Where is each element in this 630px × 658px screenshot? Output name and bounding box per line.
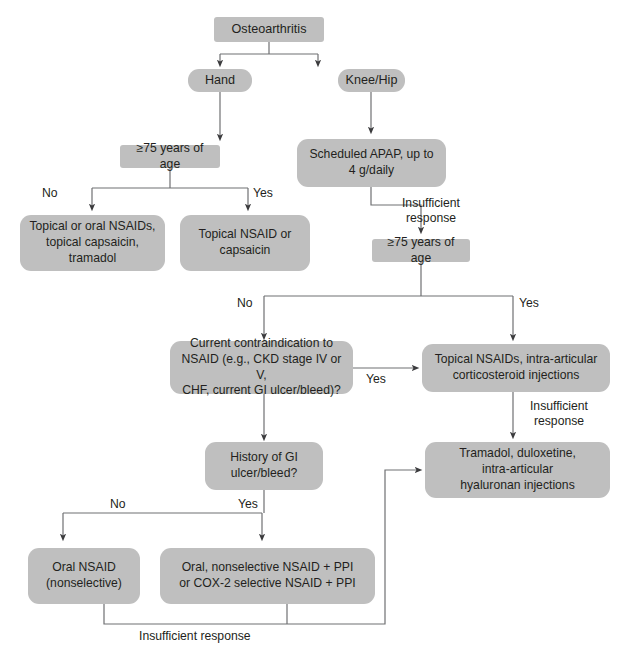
- node-age-knee-label: ≥75 years of age: [378, 235, 464, 267]
- node-knee-hip[interactable]: Knee/Hip: [338, 69, 405, 92]
- node-age-hand[interactable]: ≥75 years of age: [120, 145, 220, 168]
- edge-label-topical-insufficient: Insufficient response: [519, 399, 599, 430]
- flowchart-canvas: Osteoarthritis Hand Knee/Hip ≥75 years o…: [0, 0, 630, 658]
- node-osteoarthritis-label: Osteoarthritis: [232, 21, 307, 37]
- node-contraindication[interactable]: Current contraindication to NSAID (e.g.,…: [170, 341, 353, 394]
- node-scheduled-apap[interactable]: Scheduled APAP, up to 4 g/daily: [297, 139, 446, 187]
- node-gi-history-label: History of GI ulcer/bleed?: [230, 450, 298, 482]
- node-contraindication-label: Current contraindication to NSAID (e.g.,…: [176, 336, 347, 399]
- edge-label-contra-yes: Yes: [366, 372, 386, 387]
- edge-label-gi-no: No: [110, 497, 126, 512]
- edge-label-ageknee-yes: Yes: [519, 296, 539, 311]
- node-hand-yes-treatment-label: Topical NSAID or capsaicin: [199, 227, 292, 259]
- node-age-hand-label: ≥75 years of age: [126, 141, 214, 173]
- node-oral-ppi[interactable]: Oral, nonselective NSAID + PPI or COX-2 …: [160, 548, 375, 604]
- edge-label-bottom-insufficient: Insufficient response: [139, 629, 251, 644]
- node-scheduled-apap-label: Scheduled APAP, up to 4 g/daily: [309, 147, 433, 179]
- node-hand-no-treatment-label: Topical or oral NSAIDs, topical capsaici…: [30, 219, 156, 267]
- node-hand-label: Hand: [205, 72, 235, 88]
- node-oral-nsaid[interactable]: Oral NSAID (nonselective): [28, 548, 140, 604]
- edge-label-hand-no: No: [42, 186, 58, 201]
- node-tramadol-duloxetine[interactable]: Tramadol, duloxetine, intra-articular hy…: [425, 442, 610, 498]
- edge-label-hand-yes: Yes: [253, 186, 273, 201]
- node-hand[interactable]: Hand: [188, 69, 252, 92]
- node-topical-injections-label: Topical NSAIDs, intra-articular corticos…: [435, 352, 598, 384]
- node-osteoarthritis[interactable]: Osteoarthritis: [214, 17, 324, 42]
- edge-label-apap-insufficient: Insufficient response: [388, 196, 474, 227]
- node-oral-ppi-label: Oral, nonselective NSAID + PPI or COX-2 …: [179, 560, 355, 592]
- node-hand-yes-treatment[interactable]: Topical NSAID or capsaicin: [180, 215, 310, 271]
- node-age-knee[interactable]: ≥75 years of age: [372, 239, 470, 262]
- edge-label-ageknee-no: No: [237, 296, 253, 311]
- node-topical-injections[interactable]: Topical NSAIDs, intra-articular corticos…: [422, 344, 610, 392]
- node-knee-hip-label: Knee/Hip: [346, 72, 398, 88]
- node-gi-history[interactable]: History of GI ulcer/bleed?: [205, 442, 323, 490]
- node-tramadol-duloxetine-label: Tramadol, duloxetine, intra-articular hy…: [459, 446, 576, 494]
- node-oral-nsaid-label: Oral NSAID (nonselective): [46, 560, 122, 592]
- edge-label-gi-yes: Yes: [238, 497, 258, 512]
- node-hand-no-treatment[interactable]: Topical or oral NSAIDs, topical capsaici…: [20, 215, 165, 271]
